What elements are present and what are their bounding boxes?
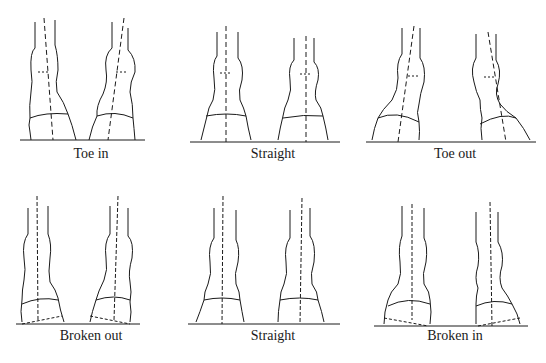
caption-straight-top: Straight	[182, 146, 364, 162]
panel-broken-in: Broken in	[364, 182, 546, 363]
caption-toe-out: Toe out	[364, 146, 546, 162]
caption-broken-out: Broken out	[0, 328, 182, 344]
panel-toe-out: Toe out	[364, 0, 546, 181]
panel-straight-bottom: Straight	[182, 182, 364, 363]
caption-straight-bottom: Straight	[182, 328, 364, 344]
panel-toe-in: Toe in	[0, 0, 182, 181]
panel-straight-top: Straight	[182, 0, 364, 181]
caption-toe-in: Toe in	[0, 146, 182, 162]
caption-broken-in: Broken in	[364, 328, 546, 344]
panel-broken-out: Broken out	[0, 182, 182, 363]
